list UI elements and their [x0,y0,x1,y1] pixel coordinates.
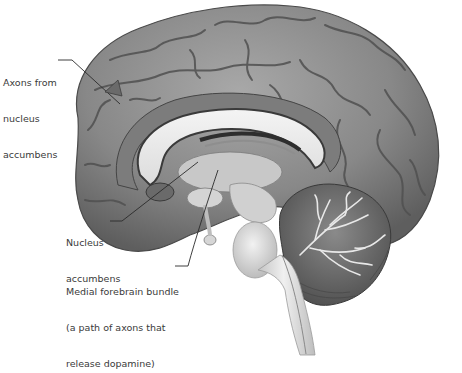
label-line: release dopamine) [66,358,179,370]
label-line: nucleus [3,113,57,125]
label-line: accumbens [3,149,57,161]
label-line: Medial forebrain bundle [66,286,179,298]
label-line: (a path of axons that [66,322,179,334]
label-medial-forebrain-bundle: Medial forebrain bundle (a path of axons… [66,262,179,373]
label-line: Nucleus [66,237,120,249]
label-axons-from-nucleus-accumbens: Axons from nucleus accumbens [3,53,57,173]
pituitary [204,235,216,245]
label-line: Axons from [3,77,57,89]
